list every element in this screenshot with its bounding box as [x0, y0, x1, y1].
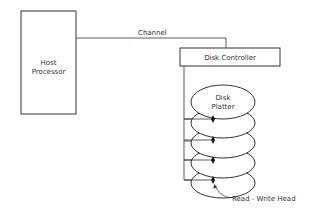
platter-label-line1: Disk: [215, 94, 231, 102]
disk-system-diagram: Host Processor Channel Disk Controller D…: [0, 0, 315, 209]
host-label-line1: Host: [41, 59, 57, 67]
channel-connection: Channel: [76, 29, 226, 48]
platter-stack: Disk Platter: [191, 85, 255, 198]
host-label-line2: Processor: [32, 68, 66, 76]
platter-1: [191, 85, 255, 119]
controller-label: Disk Controller: [204, 54, 256, 62]
disk-controller-box: Disk Controller: [180, 48, 280, 66]
platter-label-line2: Platter: [211, 103, 234, 111]
head-label: Read - Write Head: [232, 195, 296, 203]
host-processor-box: Host Processor: [21, 11, 76, 114]
channel-label: Channel: [138, 29, 167, 37]
